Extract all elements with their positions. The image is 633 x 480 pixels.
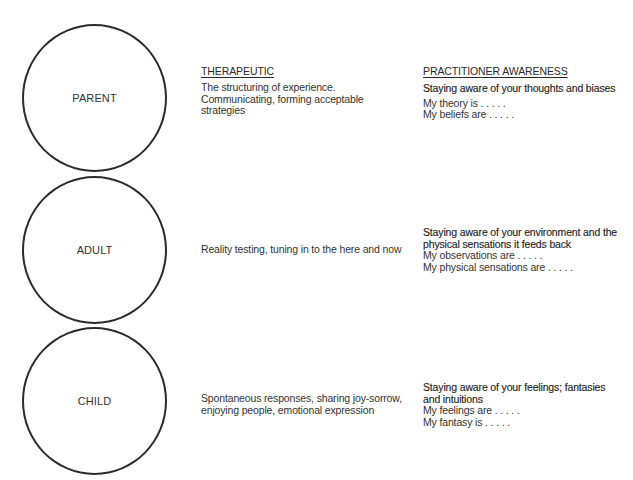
parent-therapeutic-text: The structuring of experience. Communica…: [201, 82, 364, 117]
parent-awareness-text: Staying aware of your thoughts and biase…: [423, 83, 615, 121]
text-line: Spontaneous responses, sharing joy-sorro…: [201, 393, 402, 405]
awareness-lead: Staying aware of your feelings; fantasie…: [423, 382, 605, 394]
awareness-prompt: My observations are . . . . .: [423, 250, 617, 262]
child-label: CHILD: [78, 395, 112, 407]
therapeutic-heading: THERAPEUTIC: [201, 65, 274, 77]
child-ego-state-circle: CHILD: [22, 327, 167, 475]
awareness-prompt: My feelings are . . . . .: [423, 405, 605, 417]
text-line: enjoying people, emotional expression: [201, 405, 402, 417]
text-line: The structuring of experience.: [201, 82, 364, 94]
child-awareness-text: Staying aware of your feelings; fantasie…: [423, 382, 605, 428]
parent-ego-state-circle: PARENT: [22, 24, 167, 172]
awareness-lead: Staying aware of your thoughts and biase…: [423, 83, 615, 95]
child-therapeutic-text: Spontaneous responses, sharing joy-sorro…: [201, 393, 402, 416]
adult-awareness-text: Staying aware of your environment and th…: [423, 227, 617, 273]
adult-label: ADULT: [77, 244, 113, 256]
text-line: Reality testing, tuning in to the here a…: [201, 244, 401, 256]
parent-label: PARENT: [72, 92, 116, 104]
adult-therapeutic-text: Reality testing, tuning in to the here a…: [201, 244, 401, 256]
text-line: strategies: [201, 105, 364, 117]
adult-ego-state-circle: ADULT: [22, 176, 167, 324]
practitioner-awareness-heading: PRACTITIONER AWARENESS: [423, 65, 568, 77]
awareness-prompt: My fantasy is . . . . .: [423, 417, 605, 429]
awareness-prompt: My beliefs are . . . . .: [423, 109, 615, 121]
awareness-prompt: My physical sensations are . . . . .: [423, 262, 617, 274]
awareness-lead: Staying aware of your environment and th…: [423, 227, 617, 239]
